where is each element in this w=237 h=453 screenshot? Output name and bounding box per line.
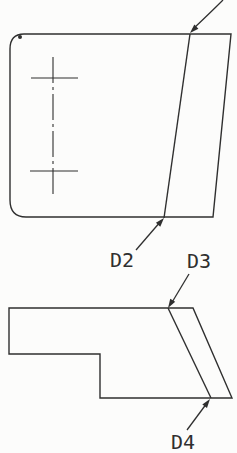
leader-d4-line <box>187 403 207 430</box>
leader-d2-line <box>136 221 161 250</box>
top-view-bend-line <box>164 34 190 218</box>
engineering-drawing: D2D3D4 <box>0 0 237 453</box>
label-d2: D2 <box>110 248 134 272</box>
side-view-bend-line <box>168 308 211 398</box>
leader-offscreen-top-line <box>193 0 223 29</box>
corner-ink-blob <box>18 35 22 39</box>
drawing-canvas: D2D3D4 <box>0 0 237 453</box>
label-d4: D4 <box>171 430 195 453</box>
top-view-outline <box>10 34 231 217</box>
label-d3: D3 <box>187 249 211 273</box>
leader-d3-line <box>171 274 189 304</box>
side-view-outline <box>9 308 232 398</box>
